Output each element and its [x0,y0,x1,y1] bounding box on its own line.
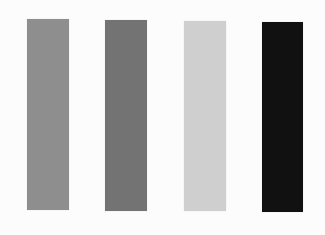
swatch-black [262,22,303,212]
swatch-dark-gray [105,20,147,211]
gray-swatch-canvas [0,0,325,235]
swatch-light-gray [184,21,226,211]
swatch-medium-gray [27,19,69,210]
